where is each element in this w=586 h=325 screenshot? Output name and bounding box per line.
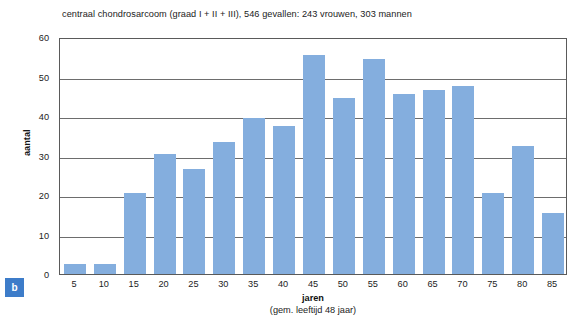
x-tick-label: 75 [487, 279, 497, 289]
x-tick-label: 60 [398, 279, 408, 289]
y-tick-label: 50 [39, 73, 49, 83]
x-tick-label: 55 [368, 279, 378, 289]
bar [213, 142, 235, 274]
bar [512, 146, 534, 274]
x-tick-label: 65 [427, 279, 437, 289]
x-tick-label: 20 [158, 279, 168, 289]
y-tick-label: 10 [39, 231, 49, 241]
bar [183, 169, 205, 274]
bar [482, 193, 504, 274]
x-tick-label: 70 [457, 279, 467, 289]
bar [243, 118, 265, 274]
x-tick-label: 10 [99, 279, 109, 289]
bar-series [60, 39, 566, 274]
bar [94, 264, 116, 274]
x-tick-label: 5 [71, 279, 76, 289]
y-tick-label: 40 [39, 112, 49, 122]
x-axis-subtitle: (gem. leeftijd 48 jaar) [59, 305, 567, 315]
chart-title: centraal chondrosarcoom (graad I + II + … [62, 9, 412, 19]
x-tick-label: 45 [308, 279, 318, 289]
bar [393, 94, 415, 274]
x-tick-label: 50 [338, 279, 348, 289]
x-tick-label: 15 [129, 279, 139, 289]
bar [423, 90, 445, 274]
y-tick-label: 30 [39, 152, 49, 162]
x-axis-title: jaren [59, 293, 567, 303]
x-tick-label: 25 [188, 279, 198, 289]
x-axis-tick-labels: 510152025303540455055606570758085 [59, 279, 567, 293]
x-tick-label: 40 [278, 279, 288, 289]
bar [64, 264, 86, 274]
y-tick-label: 20 [39, 191, 49, 201]
x-tick-label: 85 [547, 279, 557, 289]
chart-figure: centraal chondrosarcoom (graad I + II + … [0, 0, 586, 325]
y-tick-label: 0 [44, 270, 49, 280]
y-axis-tick-labels: 0102030405060 [0, 38, 55, 275]
bar [124, 193, 146, 274]
bar [154, 154, 176, 274]
bar [333, 98, 355, 274]
bar [542, 213, 564, 274]
x-tick-label: 30 [218, 279, 228, 289]
y-tick-label: 60 [39, 33, 49, 43]
bar [273, 126, 295, 274]
panel-badge: b [5, 278, 24, 297]
bar [452, 86, 474, 274]
x-tick-label: 80 [517, 279, 527, 289]
bar [303, 55, 325, 274]
x-tick-label: 35 [248, 279, 258, 289]
bar [363, 59, 385, 274]
plot-area [59, 38, 567, 275]
